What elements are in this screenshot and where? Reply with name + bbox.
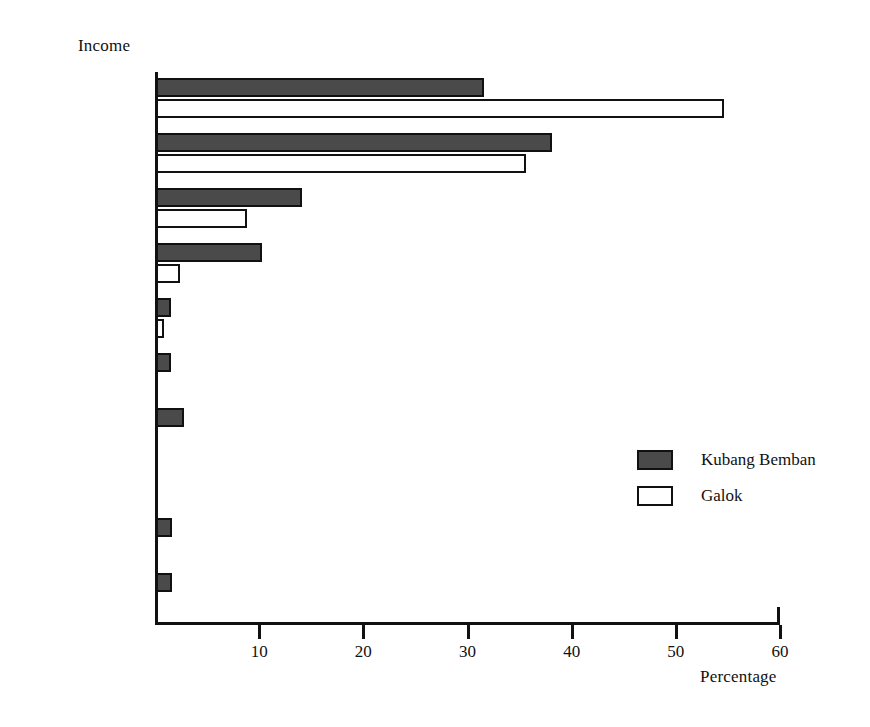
x-tick-label: 10 xyxy=(251,642,268,662)
legend-swatch-kubang xyxy=(637,450,673,470)
plot-area: 102030405060 0–9991,000–1,9992,000–2,999… xyxy=(155,72,780,622)
x-axis-title: Percentage xyxy=(700,667,777,687)
bar-kubang-bemban xyxy=(156,408,184,427)
y-axis-title: Income xyxy=(78,36,130,56)
legend-label: Kubang Bemban xyxy=(701,450,816,470)
legend-item: Galok xyxy=(637,478,867,514)
bar-galok xyxy=(156,99,724,118)
bar-kubang-bemban xyxy=(156,78,484,97)
bar-kubang-bemban xyxy=(156,573,172,592)
bar-kubang-bemban xyxy=(156,298,171,317)
bar-galok xyxy=(156,209,247,228)
legend-label: Galok xyxy=(701,486,743,506)
x-tick-mark xyxy=(571,625,574,639)
x-tick-label: 60 xyxy=(772,642,789,662)
bar-kubang-bemban xyxy=(156,188,302,207)
x-tick-mark xyxy=(779,625,782,639)
x-tick-label: 40 xyxy=(563,642,580,662)
x-tick-mark xyxy=(258,625,261,639)
bar-galok xyxy=(156,319,164,338)
x-tick-label: 20 xyxy=(355,642,372,662)
legend-item: Kubang Bemban xyxy=(637,442,867,478)
x-axis-end-cap xyxy=(777,607,780,625)
bar-galok xyxy=(156,264,180,283)
legend-swatch-galok xyxy=(637,486,673,506)
bar-kubang-bemban xyxy=(156,518,172,537)
chart-legend: Kubang BembanGalok xyxy=(637,442,867,514)
bar-kubang-bemban xyxy=(156,133,552,152)
x-tick-label: 50 xyxy=(667,642,684,662)
x-tick-label: 30 xyxy=(459,642,476,662)
bar-galok xyxy=(156,154,526,173)
bar-kubang-bemban xyxy=(156,243,262,262)
bar-kubang-bemban xyxy=(156,353,171,372)
x-tick-mark xyxy=(362,625,365,639)
x-tick-mark xyxy=(675,625,678,639)
income-percentage-bar-chart: Income 102030405060 0–9991,000–1,9992,00… xyxy=(0,0,870,727)
x-tick-mark xyxy=(467,625,470,639)
